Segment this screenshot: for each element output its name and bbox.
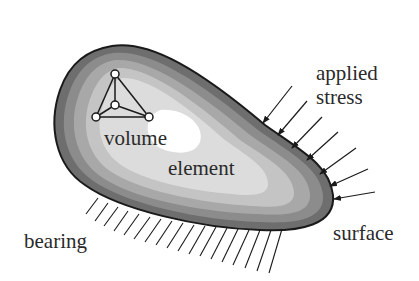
label-applied: applied bbox=[316, 61, 378, 85]
arrow-icon bbox=[307, 132, 338, 160]
arrow-icon bbox=[320, 148, 356, 174]
solid-body bbox=[54, 45, 333, 230]
label-stress: stress bbox=[316, 85, 363, 109]
node-icon bbox=[145, 113, 153, 121]
node-icon bbox=[111, 101, 119, 109]
node-icon bbox=[92, 113, 100, 121]
arrow-icon bbox=[278, 101, 307, 135]
arrow-icon bbox=[330, 169, 368, 186]
label-surface: surface bbox=[333, 221, 394, 245]
node-icon bbox=[111, 70, 119, 78]
arrow-icon bbox=[292, 117, 322, 148]
label-volume: volume bbox=[104, 126, 167, 150]
label-bearing: bearing bbox=[24, 229, 87, 253]
label-element: element bbox=[168, 156, 235, 180]
diagram-canvas: volume element applied stress bearing su… bbox=[0, 0, 419, 281]
arrow-icon bbox=[263, 86, 292, 123]
arrow-icon bbox=[334, 192, 375, 199]
